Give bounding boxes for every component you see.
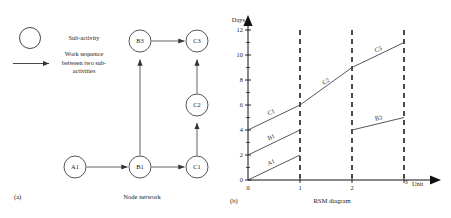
- x-axis-ticks: 0 1 2 3: [246, 177, 407, 191]
- node-c3-label: C3: [193, 37, 200, 44]
- legend-worksequence-line1: Work sequence: [65, 50, 104, 57]
- y-tick-label-8: 8: [240, 76, 243, 83]
- circle-node-symbol: [20, 28, 41, 49]
- line-c1[interactable]: [248, 105, 300, 130]
- node-c1[interactable]: C1: [186, 156, 208, 178]
- panel-b-caption-tag: (b): [230, 197, 238, 205]
- x-axis-title: Unit: [412, 180, 424, 187]
- node-b3[interactable]: B3: [129, 30, 151, 52]
- line-b1[interactable]: [248, 130, 300, 155]
- node-a1-label: A1: [71, 163, 79, 170]
- y-tick-label-12: 12: [237, 26, 243, 33]
- panel-b-caption: RSM diagram: [313, 197, 351, 204]
- x-tick-label-0: 0: [246, 184, 249, 191]
- x-tick-label-3: 3: [404, 178, 407, 185]
- node-c1-label: C1: [193, 163, 200, 170]
- node-c3[interactable]: C3: [186, 30, 208, 52]
- node-a1[interactable]: A1: [64, 156, 86, 178]
- figure-svg: Sub-activity Work sequence between two s…: [0, 0, 451, 218]
- series-labels: A1 B1 C1 C2 C3 B3: [266, 44, 383, 167]
- line-a1[interactable]: [248, 155, 300, 180]
- figure-container: Sub-activity Work sequence between two s…: [0, 0, 451, 218]
- panel-a-caption: Node network: [123, 193, 161, 200]
- x-tick-label-1: 1: [298, 184, 301, 191]
- y-tick-label-0: 0: [240, 176, 243, 183]
- y-tick-label-4: 4: [240, 126, 244, 133]
- panel-a-caption-tag: (a): [14, 193, 21, 201]
- rsm-chart-group: Days Unit 0 2 4 6 8 10 12: [232, 15, 441, 191]
- legend-worksequence-line2: between two sub-: [62, 59, 106, 66]
- x-axis-arrow: [430, 175, 441, 184]
- unit-separators: [300, 30, 404, 178]
- series-label-a1: A1: [266, 157, 276, 167]
- x-tick-label-2: 2: [350, 184, 353, 191]
- series-label-c1: C1: [266, 107, 276, 116]
- y-tick-label-10: 10: [237, 51, 243, 58]
- legend-subactivity-label: Sub-activity: [69, 34, 101, 41]
- legend-worksequence-line3: activities: [73, 67, 96, 74]
- node-c2-label: C2: [193, 101, 200, 108]
- node-b1-label: B1: [136, 163, 143, 170]
- node-b1[interactable]: B1: [129, 156, 151, 178]
- y-axis-title: Days: [232, 16, 246, 23]
- node-c2[interactable]: C2: [186, 94, 208, 116]
- node-b3-label: B3: [136, 37, 143, 44]
- series-label-b1: B1: [266, 132, 276, 141]
- legend-group: Sub-activity Work sequence between two s…: [13, 28, 106, 75]
- series-label-b3: B3: [374, 113, 383, 121]
- y-tick-label-2: 2: [240, 151, 243, 158]
- y-tick-label-6: 6: [240, 101, 243, 108]
- line-c2[interactable]: [300, 68, 352, 106]
- y-axis-ticks: 0 2 4 6 8 10 12: [237, 26, 251, 183]
- series-label-c3: C3: [373, 44, 383, 53]
